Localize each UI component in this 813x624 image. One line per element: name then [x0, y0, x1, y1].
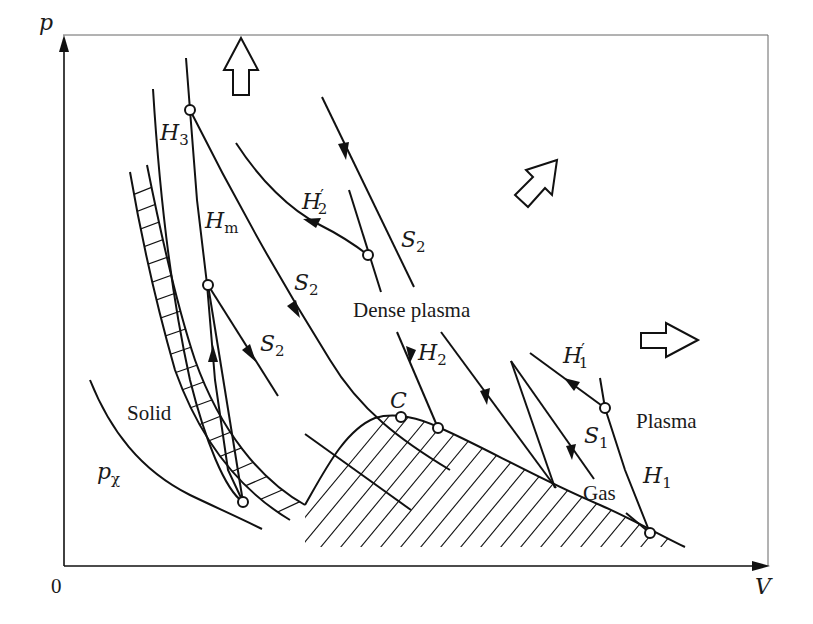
s2-lower-arrowhead [242, 344, 256, 362]
point-h2-prime [363, 250, 373, 260]
label-s1: S1 [584, 425, 609, 451]
point-hm [203, 280, 213, 290]
up-arrow-icon [224, 38, 258, 95]
s2-right-line [441, 332, 556, 488]
origin-label: 0 [51, 576, 62, 597]
h3-curve [186, 58, 243, 502]
region-plasma-label: Plasma [636, 411, 697, 432]
point-h1-prime [600, 403, 610, 413]
label-h2-prime: H′2 [302, 188, 327, 217]
region-solid-label: Solid [127, 403, 171, 424]
point-h2 [433, 423, 443, 433]
s1-line [511, 361, 594, 479]
s2-right-arrowhead [480, 388, 490, 405]
label-h1: H1 [643, 465, 672, 491]
point-h1 [645, 528, 655, 538]
h2-prime-arrowhead [303, 218, 321, 228]
point-critical [396, 412, 406, 422]
label-hm: Hm [205, 210, 238, 236]
label-h3: H3 [160, 122, 189, 148]
label-s2-middle: S2 [294, 272, 319, 298]
s2-upper-arrowhead [338, 142, 349, 160]
y-axis [59, 35, 69, 566]
hm-arrowhead [208, 345, 218, 362]
gas-isentrope-line [511, 361, 555, 488]
h2-prime-stub [349, 190, 381, 292]
label-h1-prime: H′1 [563, 342, 588, 371]
h1-curve [600, 378, 650, 533]
label-h2: H2 [418, 342, 447, 368]
y-axis-label: p [39, 12, 53, 34]
hm-upward-line [208, 285, 243, 502]
x-axis-label: V [755, 576, 771, 598]
region-dense-plasma-label: Dense plasma [353, 300, 470, 321]
point-h3-top [185, 105, 195, 115]
point-h3-bottom [238, 497, 248, 507]
critical-point-label: C [390, 390, 407, 412]
x-axis [64, 561, 770, 571]
right-arrow-icon [641, 323, 698, 357]
isotherm-left-curve [153, 89, 243, 502]
label-s2-lower: S2 [260, 333, 285, 359]
label-p-chi: pχ [97, 461, 120, 487]
diagonal-arrow-icon [515, 160, 557, 207]
region-gas-label: Gas [583, 483, 616, 504]
label-s2-upper: S2 [401, 229, 426, 255]
pv-phase-diagram: p V 0 Solid Dense plasma Gas Plasma H3 H… [0, 0, 813, 624]
